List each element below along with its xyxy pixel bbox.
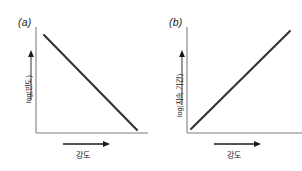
x-axis-arrow-b [214, 141, 261, 147]
figure-container: (a) log(빈도) 강도 (b) [0, 0, 302, 171]
panel-b: (b) log(지속 기간) 강도 [151, 0, 302, 171]
panel-a: (a) log(빈도) 강도 [0, 0, 151, 171]
y-axis-label-a: log(빈도) [23, 75, 33, 103]
x-axis-label-b: 강도 [209, 149, 259, 160]
y-axis-label-b: log(지속 기간) [174, 74, 184, 117]
x-axis-label-a: 강도 [58, 149, 108, 160]
data-line-a [44, 35, 137, 130]
x-axis-arrow-a [63, 141, 110, 147]
data-line-b [191, 31, 290, 129]
